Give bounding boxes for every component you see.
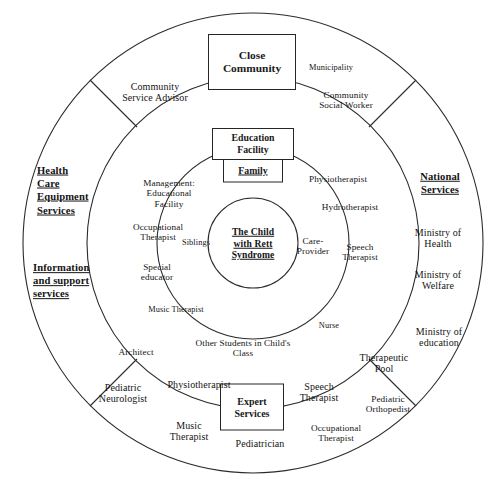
close-community-municipality-label: Municipality (300, 63, 362, 72)
expert-services-pediatric-neurologist-label: Pediatric Neurologist (90, 382, 156, 404)
expert-services-pediatrician-label: Pediatrician (223, 438, 297, 449)
expert-services-architect-label: Architect (108, 347, 164, 357)
education-facility-box[interactable]: Education Facility (212, 128, 294, 160)
national-services-ministry-health-label: Ministry of Health (403, 227, 473, 249)
close-community-box[interactable]: Close Community (208, 34, 296, 90)
education-ring-physiotherapist-label: Physiotherapist (296, 174, 380, 184)
sector-header-health-care-equipment: Health Care Equipment Services (37, 164, 119, 217)
sector-header-national-services: National Services (404, 170, 476, 196)
close-community-service-advisor-label: Community Service Advisor (109, 81, 201, 103)
expert-services-therapeutic-pool-label: Therapeutic Pool (352, 352, 416, 374)
family-box[interactable]: Family (223, 158, 283, 183)
rett-syndrome-support-diagram: The Child with Rett Syndrome Family Educ… (0, 0, 503, 489)
education-ring-music-therapist-label: Music Therapist (140, 305, 212, 314)
expert-services-music-therapist-label: Music Therapist (165, 420, 213, 442)
expert-services-physiotherapist-label: Physiotherapist (159, 379, 239, 390)
close-community-social-worker-label: Community Social Worker (306, 90, 386, 111)
expert-services-pediatric-orthopedist-label: Pediatric Orthopedist (357, 394, 419, 415)
sector-header-information-support: Information and support services (33, 261, 125, 301)
education-ring-other-students-label: Other Students in Child's Class (173, 338, 313, 359)
education-ring-occupational-therapist-label: Occupational Therapist (125, 222, 191, 243)
education-ring-special-educator-label: Special educator (129, 262, 185, 283)
education-ring-speech-therapist-label: Speech Therapist (332, 242, 388, 263)
education-ring-management-label: Management: Educational Facility (135, 178, 203, 209)
education-ring-hydrotherapist-label: Hydrotherapist (309, 202, 391, 212)
family-ring-care-provider-label: Care- Provider (290, 236, 336, 257)
national-services-ministry-welfare-label: Ministry of Welfare (403, 269, 473, 291)
core-child-label: The Child with Rett Syndrome (210, 226, 296, 261)
education-ring-nurse-label: Nurse (311, 321, 347, 330)
expert-services-occupational-therapist-label: Occupational Therapist (302, 423, 370, 444)
expert-services-speech-therapist-label: Speech Therapist (292, 381, 346, 403)
national-services-ministry-education-label: Ministry of education (403, 326, 475, 348)
